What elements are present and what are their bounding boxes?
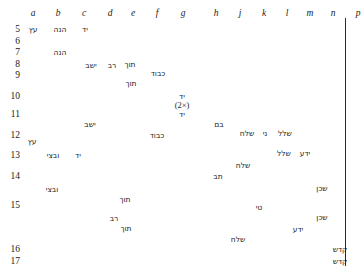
word-annotation: (2×)	[175, 101, 190, 110]
plot-right-border	[345, 18, 346, 266]
column-label-k: k	[262, 8, 266, 18]
column-label-f: f	[156, 8, 159, 18]
plot-area: abcdefghjklmnpq 567891011121314151617 עץ…	[0, 0, 362, 270]
word-token: ישב	[84, 120, 95, 129]
word-token: שכן	[316, 213, 327, 222]
column-label-a: a	[31, 8, 36, 18]
column-label-p: p	[356, 8, 361, 18]
word-token: שלח	[236, 161, 250, 170]
column-label-j: j	[239, 8, 242, 18]
word-token: הנה	[54, 25, 67, 34]
row-label-8: 8	[4, 59, 20, 69]
column-label-c: c	[82, 8, 86, 18]
hebrew-word-distribution-chart: abcdefghjklmnpq 567891011121314151617 עץ…	[0, 0, 362, 270]
row-label-9: 9	[4, 70, 20, 80]
row-label-16: 16	[4, 244, 20, 254]
word-token: ובצי	[47, 151, 60, 160]
word-token: שלח	[240, 129, 254, 138]
column-label-l: l	[286, 8, 289, 18]
word-token: ידע	[300, 149, 310, 158]
word-token: קדש	[333, 257, 348, 266]
word-token: כבוד	[150, 131, 164, 140]
word-token: טי	[256, 203, 263, 212]
row-label-14: 14	[4, 171, 20, 181]
word-token: יד	[179, 110, 185, 119]
word-token: יד	[75, 151, 81, 160]
word-token: הנה	[54, 48, 67, 57]
word-token: תב	[213, 172, 222, 181]
row-label-17: 17	[4, 256, 20, 266]
word-token: שלח	[231, 235, 245, 244]
word-token: בם	[214, 120, 223, 129]
row-label-6: 6	[4, 36, 20, 46]
row-label-15: 15	[4, 200, 20, 210]
column-label-m: m	[307, 8, 314, 18]
row-label-5: 5	[4, 24, 20, 34]
row-label-13: 13	[4, 150, 20, 160]
word-token: יד	[82, 25, 88, 34]
column-label-b: b	[56, 8, 61, 18]
column-label-g: g	[181, 8, 186, 18]
word-token: רב	[108, 61, 117, 70]
column-label-d: d	[108, 8, 113, 18]
word-token: רב	[110, 214, 119, 223]
word-token: שלל	[277, 149, 291, 158]
word-token: ני	[263, 129, 268, 138]
word-token: עץ	[29, 25, 38, 34]
word-token: כבוד	[151, 69, 165, 78]
word-token: תוך	[119, 195, 130, 204]
word-token: ישב	[85, 61, 96, 70]
word-token: תוך	[120, 224, 131, 233]
word-token: ידע	[293, 225, 303, 234]
word-token: עץ	[28, 137, 37, 146]
word-token: שכן	[316, 184, 327, 193]
word-token: תוך	[125, 79, 136, 88]
word-token: קדש	[333, 245, 348, 254]
column-label-h: h	[214, 8, 219, 18]
row-label-7: 7	[4, 47, 20, 57]
row-label-10: 10	[4, 91, 20, 101]
column-label-e: e	[131, 8, 135, 18]
column-label-n: n	[331, 8, 336, 18]
row-label-12: 12	[4, 130, 20, 140]
word-token: תוך	[124, 60, 135, 69]
word-token: שלל	[278, 129, 292, 138]
row-label-11: 11	[4, 109, 20, 119]
word-token: ובצי	[46, 185, 59, 194]
